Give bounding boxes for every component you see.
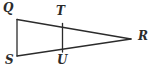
geometry-diagram: Q S T U R — [0, 0, 152, 69]
segment-QR — [17, 20, 131, 40]
vertex-label-S: S — [5, 54, 14, 66]
vertex-label-R: R — [138, 30, 148, 42]
segment-SR — [17, 39, 131, 56]
geometry-figure — [0, 0, 152, 69]
vertex-label-U: U — [57, 54, 67, 66]
vertex-label-T: T — [56, 5, 65, 17]
vertex-label-Q: Q — [3, 2, 13, 14]
